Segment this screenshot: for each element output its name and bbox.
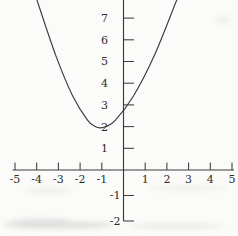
x-tick-label: -5	[10, 173, 21, 186]
x-tick-label: 3	[185, 173, 192, 186]
y-tick-label: -1	[110, 189, 121, 202]
x-tick-label: -1	[96, 173, 107, 186]
x-tick-label: -3	[53, 173, 64, 186]
x-tick-label: 2	[163, 173, 170, 186]
parabola-plot: -5-4-3-2-112345-2-112345678	[0, 0, 238, 236]
x-tick-label: 4	[207, 173, 214, 186]
x-tick-label: -2	[75, 173, 86, 186]
x-tick-label: 5	[229, 173, 236, 186]
y-tick-label: 6	[101, 34, 108, 47]
y-tick-label: 1	[101, 142, 108, 155]
scanned-graph-page: -5-4-3-2-112345-2-112345678	[0, 0, 238, 236]
y-tick-label: 3	[101, 99, 108, 112]
y-tick-label: 5	[101, 55, 108, 68]
x-tick-label: -4	[31, 173, 42, 186]
y-tick-label: 8	[101, 0, 108, 3]
x-tick-label: 1	[142, 173, 149, 186]
y-tick-label: 4	[101, 77, 108, 90]
y-tick-label: -2	[110, 215, 121, 228]
y-tick-label: 7	[101, 12, 108, 25]
